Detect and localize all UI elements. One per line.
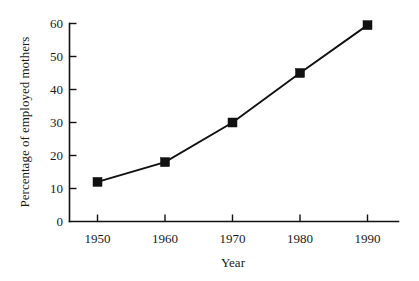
y-axis-title: Percentage of employed mothers	[17, 37, 32, 208]
x-tick-label-1990: 1990	[355, 231, 381, 246]
data-point-1990	[363, 21, 372, 30]
y-tick-label-50: 50	[50, 49, 63, 64]
y-tick-label-10: 10	[50, 181, 63, 196]
x-tick-label-1970: 1970	[220, 231, 246, 246]
data-point-1960	[161, 158, 170, 167]
x-tick-label-1960: 1960	[152, 231, 178, 246]
y-tick-label-40: 40	[50, 82, 63, 97]
data-point-1980	[296, 69, 305, 78]
data-point-1950	[93, 177, 102, 186]
line-chart-figure: 60 50 40 30 20 10 0 1950 1960 1970 1980 …	[0, 0, 419, 281]
y-tick-label-30: 30	[50, 115, 63, 130]
chart-canvas: 60 50 40 30 20 10 0 1950 1960 1970 1980 …	[0, 0, 419, 281]
y-tick-label-20: 20	[50, 148, 63, 163]
y-tick-label-0: 0	[57, 214, 64, 229]
x-tick-label-1950: 1950	[85, 231, 111, 246]
x-axis-title: Year	[221, 255, 246, 270]
data-point-1970	[228, 118, 237, 127]
y-tick-label-60: 60	[50, 16, 63, 31]
x-tick-label-1980: 1980	[287, 231, 313, 246]
